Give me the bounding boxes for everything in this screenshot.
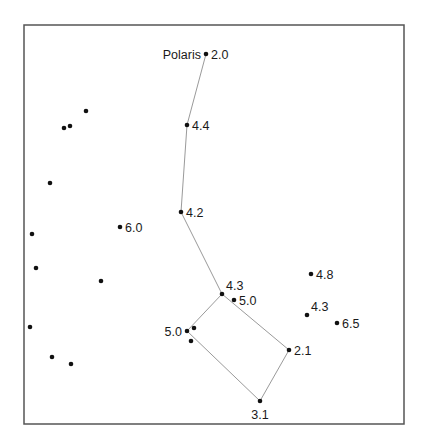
star-s50b <box>185 329 190 334</box>
star-s42 <box>179 210 184 215</box>
magnitude-label: 5.0 <box>239 294 256 308</box>
star-dot <box>62 126 67 131</box>
constellation-line <box>187 331 260 401</box>
chart-frame <box>24 25 404 424</box>
magnitude-label: 4.3 <box>311 300 328 314</box>
magnitude-label: 3.1 <box>251 408 268 422</box>
star-dot <box>189 339 194 344</box>
magnitude-label: 6.0 <box>125 221 142 235</box>
star-s60 <box>118 225 123 230</box>
constellation-lines <box>181 54 289 401</box>
magnitude-label: 4.2 <box>186 206 203 220</box>
star-s43a <box>220 292 225 297</box>
magnitude-label: 2.0 <box>211 48 228 62</box>
star-dot <box>48 181 53 186</box>
star-dot <box>34 266 39 271</box>
stars <box>28 52 340 404</box>
constellation-line <box>181 125 187 212</box>
star-dot <box>68 124 73 129</box>
star-dot <box>28 325 33 330</box>
star-s65 <box>335 321 340 326</box>
star-labels: Polaris2.04.44.24.35.05.02.13.16.04.84.3… <box>125 48 359 423</box>
star-s31 <box>258 399 263 404</box>
constellation-line <box>181 212 222 294</box>
constellation-line <box>187 294 222 331</box>
star-dot <box>99 279 104 284</box>
star-chart: Polaris2.04.44.24.35.05.02.13.16.04.84.3… <box>0 0 424 446</box>
star-s48 <box>309 272 314 277</box>
star-name-label: Polaris <box>163 48 201 62</box>
star-s44 <box>185 123 190 128</box>
star-polaris <box>204 52 209 57</box>
star-dot <box>30 232 35 237</box>
star-s50a <box>232 298 237 303</box>
star-s43b <box>305 313 310 318</box>
star-dot <box>192 326 197 331</box>
magnitude-label: 6.5 <box>342 317 359 331</box>
star-dot <box>50 355 55 360</box>
magnitude-label: 5.0 <box>165 325 182 339</box>
star-dot <box>69 362 74 367</box>
magnitude-label: 4.8 <box>316 268 333 282</box>
magnitude-label: 4.3 <box>226 279 243 293</box>
magnitude-label: 4.4 <box>192 119 209 133</box>
star-dot <box>84 109 89 114</box>
magnitude-label: 2.1 <box>294 344 311 358</box>
star-s21 <box>287 348 292 353</box>
constellation-line <box>260 350 289 401</box>
constellation-line <box>187 54 206 125</box>
